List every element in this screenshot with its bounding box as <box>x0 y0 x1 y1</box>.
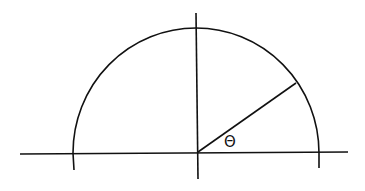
angle-theta-label: Θ <box>224 135 236 150</box>
horizontal-axis <box>20 152 348 154</box>
semicircle-diagram <box>0 0 365 191</box>
vertical-axis <box>196 13 198 179</box>
radius-line <box>198 83 296 152</box>
